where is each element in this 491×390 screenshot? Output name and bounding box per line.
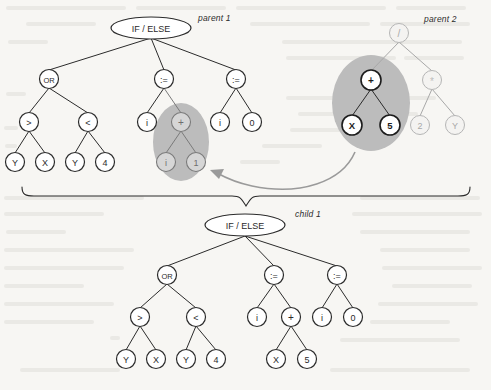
node-label-i: i [146,118,148,128]
crossover-arrow-path [217,152,355,189]
node-label-X: X [153,355,159,365]
node-label-five: 5 [304,355,309,365]
node-label-assign: := [270,271,278,281]
node-label-lt: < [193,313,198,323]
node-label-X: X [349,120,356,131]
parent1-node-plus-selected[interactable]: + [172,113,191,132]
parent1-node-one-selected[interactable]: 1 [187,153,206,172]
node-label-i: i [219,118,221,128]
child1-node-i-2[interactable]: i [313,308,332,327]
node-label-assign: := [160,75,168,85]
parent1-root-node[interactable]: IF / ELSE [111,17,191,39]
node-label-or: OR [43,76,55,85]
parent2-node-multiply[interactable]: * [423,71,442,90]
brace-path [22,187,470,206]
node-label-gt: > [26,118,31,128]
child1-node-assign-1[interactable]: := [265,266,284,285]
node-label-zero: 0 [249,118,254,128]
parent1-node-i-1[interactable]: i [138,113,157,132]
crossover-arrow-head [210,169,224,179]
node-label-Y: Y [72,158,78,168]
node-label-plus: + [288,312,294,323]
node-label-two: 2 [417,121,422,131]
parent1-node-Y-2[interactable]: Y [66,153,85,172]
parent-2-label: parent 2 [424,14,457,24]
node-label-Y: Y [452,121,458,131]
node-label-plus: + [368,75,374,86]
child1-node-four[interactable]: 4 [207,350,226,369]
parent2-node-Y[interactable]: Y [446,116,465,135]
child1-root-node[interactable]: IF / ELSE [205,214,285,236]
child1-node-plus[interactable]: + [282,308,301,327]
node-label-plus: + [178,117,184,128]
parent1-node-four[interactable]: 4 [96,153,115,172]
tree-child-1: IF / ELSE OR := := > < i + [117,214,363,369]
parent-1-label: parent 1 [198,13,231,23]
node-label-X: X [273,355,279,365]
node-label-lt: < [85,118,90,128]
node-label-Y: Y [12,158,18,168]
child1-edges [126,236,353,350]
node-label-assign: := [333,271,341,281]
node-label-four: 4 [213,355,218,365]
node-label-Y: Y [123,355,129,365]
parent1-node-less-than[interactable]: < [79,113,98,132]
parent1-node-X-1[interactable]: X [36,153,55,172]
node-label-zero: 0 [350,313,355,323]
node-label-or: OR [161,272,173,281]
child1-node-less-than[interactable]: < [187,308,206,327]
parent1-node-i-3-selected[interactable]: i [157,153,176,172]
crossover-arrow [210,152,355,189]
child-1-label: child 1 [295,209,321,219]
combining-brace [22,187,470,206]
parent2-node-divide[interactable]: / [390,24,409,43]
node-label-divide: / [398,28,401,39]
crossover-diagram: IF / ELSE OR := := > < i + [0,0,491,390]
child1-node-X-2[interactable]: X [267,350,286,369]
parent1-node-Y-1[interactable]: Y [6,153,25,172]
node-label-if-else: IF / ELSE [226,221,265,231]
node-label-multiply: * [430,76,434,87]
parent1-node-i-2[interactable]: i [211,113,230,132]
parent1-node-zero[interactable]: 0 [243,113,262,132]
parent1-node-or[interactable]: OR [40,70,59,89]
child1-node-or[interactable]: OR [158,266,177,285]
parent2-node-two[interactable]: 2 [411,116,430,135]
child1-node-Y-2[interactable]: Y [177,350,196,369]
parent1-node-assign-2[interactable]: := [227,70,246,89]
tree-parent-1: IF / ELSE OR := := > < i + [6,17,262,172]
node-label-Y: Y [183,355,189,365]
child1-node-i-1[interactable]: i [248,308,267,327]
parent1-edges [15,38,252,153]
node-label-gt: > [137,313,142,323]
node-label-one: 1 [193,158,198,168]
child1-node-five[interactable]: 5 [298,350,317,369]
parent2-node-plus-selected[interactable]: + [361,70,381,90]
child1-node-zero[interactable]: 0 [344,308,363,327]
child1-node-greater-than[interactable]: > [131,308,150,327]
node-label-if-else: IF / ELSE [132,24,171,34]
node-label-assign: := [232,75,240,85]
node-label-four: 4 [102,158,107,168]
node-label-i: i [256,313,258,323]
parent2-node-X-selected[interactable]: X [342,115,362,135]
child1-node-assign-2[interactable]: := [328,266,347,285]
node-label-X: X [42,158,48,168]
parent1-node-assign-1[interactable]: := [155,70,174,89]
node-label-i: i [321,313,323,323]
node-label-five: 5 [387,120,393,131]
parent2-node-five-selected[interactable]: 5 [380,115,400,135]
node-label-i: i [165,158,167,168]
child1-node-Y-1[interactable]: Y [117,350,136,369]
parent1-node-greater-than[interactable]: > [20,113,39,132]
child1-node-X-1[interactable]: X [147,350,166,369]
